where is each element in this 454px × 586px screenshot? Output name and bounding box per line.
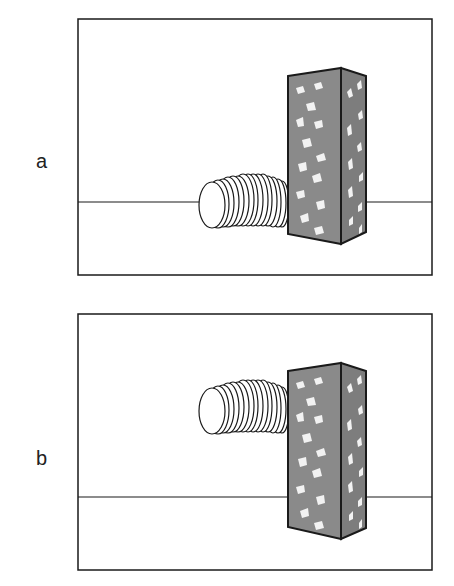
panel-b-block [288, 363, 366, 539]
panel-a [78, 19, 432, 275]
panel-a-tube [199, 174, 289, 228]
panel-b [78, 314, 432, 570]
panel-b-frame [78, 314, 432, 570]
figure [0, 0, 454, 586]
panel-a-block [288, 68, 366, 244]
panel-a-frame [78, 19, 432, 275]
panel-b-tube [199, 380, 289, 434]
